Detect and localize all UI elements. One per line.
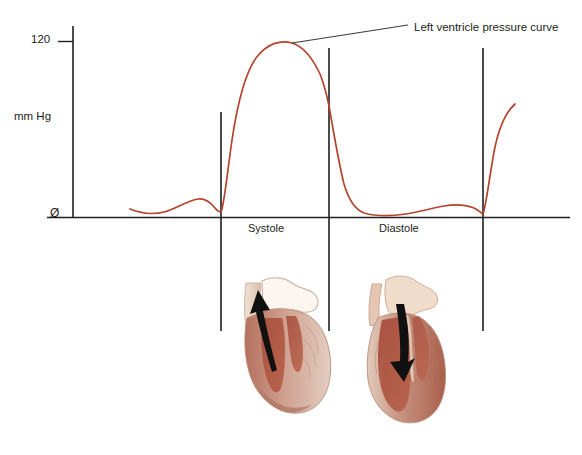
pressure-curve-group <box>130 42 515 216</box>
left-ventricle-pressure-curve <box>130 42 515 216</box>
y-tick-label-zero: Ø <box>50 206 59 220</box>
y-tick-label-120: 120 <box>31 33 50 45</box>
systole-heart-illustration <box>245 278 331 413</box>
phase-label-systole: Systole <box>248 222 284 234</box>
diastole-heart-illustration <box>367 276 445 423</box>
pressure-curve-figure: mm Hg 120 Ø Systole Diastole Left ventri… <box>0 0 582 455</box>
figure-canvas <box>0 0 582 455</box>
y-axis-unit-label: mm Hg <box>14 110 51 122</box>
curve-callout-label: Left ventricle pressure curve <box>414 21 558 33</box>
phase-label-diastole: Diastole <box>379 222 419 234</box>
callout-leader-group <box>292 25 408 43</box>
callout-leader-line <box>292 25 408 43</box>
